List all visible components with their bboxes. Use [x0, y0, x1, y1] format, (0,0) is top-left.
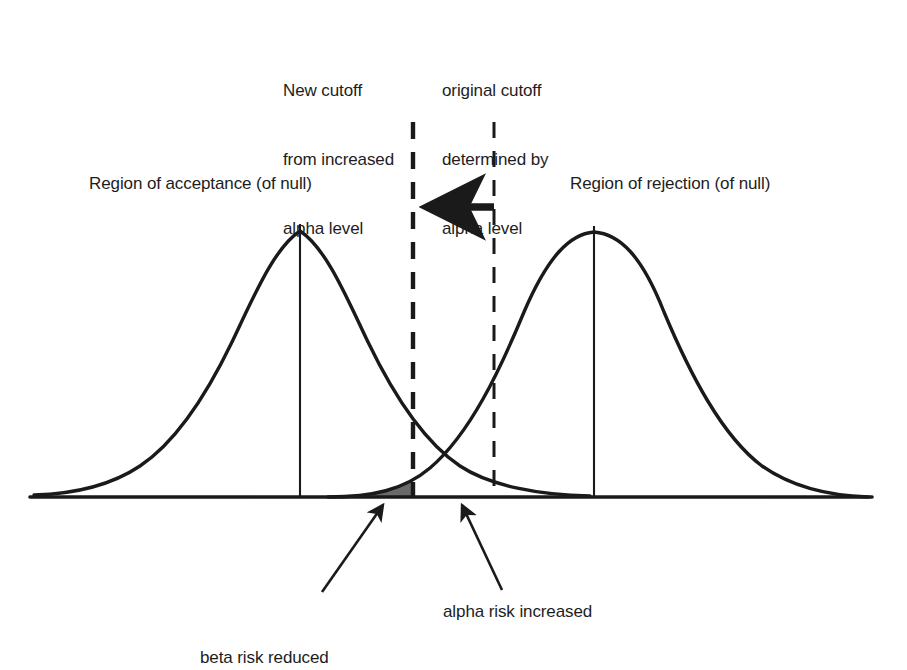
alternative-distribution-curve	[328, 232, 868, 497]
original-cutoff-label: original cutoff determined by alpha leve…	[442, 33, 548, 263]
region-of-acceptance-label: Region of acceptance (of null)	[89, 172, 312, 195]
beta-risk-shaded-region	[328, 232, 594, 497]
beta-risk-label-line1: beta risk reduced	[200, 646, 341, 669]
beta-risk-pointer-arrow	[322, 505, 383, 592]
original-cutoff-label-line1: original cutoff	[442, 79, 548, 102]
original-cutoff-label-line3: alpha level	[442, 217, 548, 240]
original-cutoff-label-line2: determined by	[442, 148, 548, 171]
new-cutoff-label-line2: from increased	[283, 148, 394, 171]
alpha-risk-label: alpha risk increased	[443, 600, 592, 623]
new-cutoff-label: New cutoff from increased alpha level	[283, 33, 394, 263]
region-of-rejection-label: Region of rejection (of null)	[570, 172, 770, 195]
beta-risk-label: beta risk reduced by change in alpha	[200, 600, 341, 670]
null-distribution-curve	[34, 231, 590, 496]
new-cutoff-label-line3: alpha level	[283, 217, 394, 240]
new-cutoff-label-line1: New cutoff	[283, 79, 394, 102]
alpha-risk-pointer-arrow	[462, 505, 502, 590]
